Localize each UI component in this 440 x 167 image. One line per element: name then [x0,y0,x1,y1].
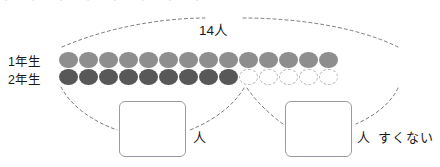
less-than-label: すくない [378,127,434,146]
left-answer-unit: 人 [193,127,206,146]
pictogram-dot-filled [219,69,238,85]
bracket-arc-top-right [243,18,398,47]
row-label-second-grade: 2年生 [8,69,56,88]
pictogram-dot-filled [79,69,98,85]
pictogram-dot-empty [299,69,318,85]
worksheet-canvas: ・ ・ ・ ・ ・ ・ ・ ・ 1年生 2年生 14人 人 人 すくない [0,0,440,167]
row-label-first-grade: 1年生 [8,51,56,70]
pictogram-dot-empty [319,69,338,85]
pictogram-dot-filled [119,52,138,68]
total-count-label: 14人 [196,19,230,39]
pictogram-dot-filled [119,69,138,85]
pictogram-dot-filled [139,69,158,85]
pictogram-dot-filled [99,52,118,68]
left-answer-box[interactable] [119,101,186,157]
pictogram-dot-filled [79,52,98,68]
bracket-arc-left-down [61,87,117,130]
pictogram-dot-filled [199,52,218,68]
bracket-arc-right-end [356,88,398,124]
pictogram-dot-filled [59,69,78,85]
bracket-arc-mid-down [190,88,244,130]
dot-row-first-grade [59,52,338,68]
pictogram-dot-filled [219,52,238,68]
dot-row-second-grade [59,69,338,85]
right-answer-unit: 人 [357,127,370,146]
right-answer-box[interactable] [285,101,352,157]
pictogram-dot-filled [159,69,178,85]
bracket-arc-top-left [62,18,205,47]
pictogram-dot-empty [279,69,298,85]
pictogram-dot-filled [199,69,218,85]
pictogram-dot-filled [239,52,258,68]
clipped-header-text: ・ ・ ・ ・ ・ ・ ・ ・ [0,0,440,5]
pictogram-dot-filled [59,52,78,68]
pictogram-dot-filled [139,52,158,68]
pictogram-dot-filled [319,52,338,68]
pictogram-dot-empty [239,69,258,85]
pictogram-dot-filled [99,69,118,85]
pictogram-dot-filled [159,52,178,68]
pictogram-dot-empty [259,69,278,85]
pictogram-dot-filled [179,52,198,68]
pictogram-dot-filled [279,52,298,68]
pictogram-dot-filled [179,69,198,85]
pictogram-dot-filled [299,52,318,68]
bracket-arc-right-start [247,88,283,124]
pictogram-dot-filled [259,52,278,68]
